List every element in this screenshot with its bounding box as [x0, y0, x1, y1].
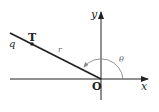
ray-q [10, 33, 101, 79]
angle-theta-label: θ [119, 56, 124, 64]
y-axis-label: y [91, 9, 97, 20]
origin-label: O [92, 81, 102, 92]
angle-arc [84, 59, 123, 79]
x-axis-label: x [141, 81, 147, 92]
distance-r-label: r [58, 46, 62, 54]
point-t-label: T [28, 32, 36, 43]
polar-diagram [0, 0, 159, 112]
ray-q-label: q [9, 39, 15, 49]
